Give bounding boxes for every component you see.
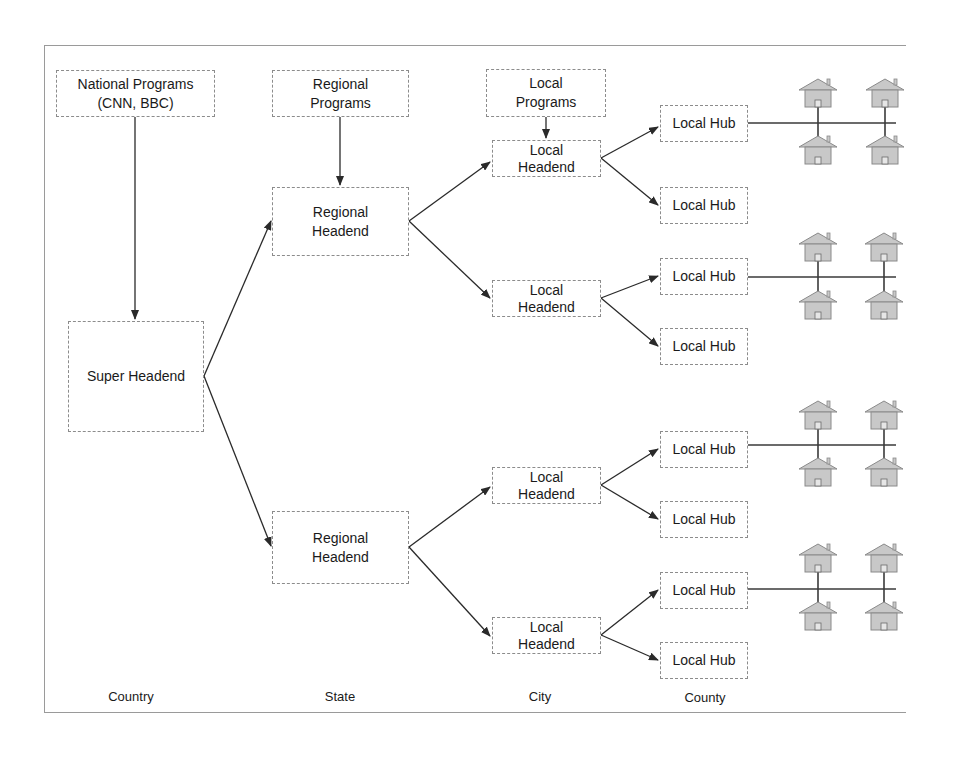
local-hub-box-5: Local Hub (660, 431, 748, 468)
local-hub-box-2: Local Hub (660, 187, 748, 224)
house-icon (799, 291, 837, 319)
house-icon (865, 544, 903, 572)
local-headend-box-2: Local Headend (492, 280, 601, 317)
house-icon (865, 458, 903, 486)
house-icon (799, 401, 837, 429)
local-hub-box-3: Local Hub (660, 258, 748, 295)
regional-headend-box-2: Regional Headend (272, 511, 409, 584)
house-icon (799, 458, 837, 486)
local-hub-box-1: Local Hub (660, 105, 748, 142)
house-icon (865, 401, 903, 429)
house-icon (866, 136, 904, 164)
house-icon (799, 79, 837, 107)
house-icon (799, 602, 837, 630)
local-headend-box-3: Local Headend (492, 467, 601, 504)
local-hub-box-7: Local Hub (660, 572, 748, 609)
house-icon (865, 291, 903, 319)
local-hub-box-8: Local Hub (660, 642, 748, 679)
house-icon (865, 602, 903, 630)
level-label-state: State (325, 689, 355, 704)
level-label-city: City (529, 689, 551, 704)
local-headend-box-4: Local Headend (492, 617, 601, 654)
cable-tv-distribution-diagram: National Programs (CNN, BBC) Regional Pr… (0, 0, 958, 758)
local-hub-box-4: Local Hub (660, 328, 748, 365)
house-icon (866, 79, 904, 107)
level-label-country: Country (108, 689, 154, 704)
house-icon (799, 544, 837, 572)
house-icon (865, 233, 903, 261)
local-headend-box-1: Local Headend (492, 140, 601, 177)
regional-programs-box: Regional Programs (272, 70, 409, 117)
level-label-county: County (684, 690, 725, 705)
house-icon (799, 136, 837, 164)
local-hub-box-6: Local Hub (660, 501, 748, 538)
super-headend-box: Super Headend (68, 321, 204, 432)
national-programs-box: National Programs (CNN, BBC) (56, 70, 215, 117)
local-programs-box: Local Programs (486, 69, 606, 117)
regional-headend-box-1: Regional Headend (272, 187, 409, 256)
house-icon (799, 233, 837, 261)
